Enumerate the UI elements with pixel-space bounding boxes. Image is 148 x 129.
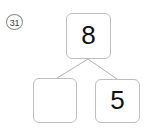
number-bond-whole-value: 8 (81, 22, 95, 48)
number-bond-part-box-right[interactable]: 5 (95, 79, 140, 123)
number-bond-whole-box[interactable]: 8 (66, 13, 111, 59)
connector-line-right (88, 59, 117, 79)
number-bond-part-value-right: 5 (110, 87, 124, 113)
number-bond-worksheet: 31 8 5 (0, 0, 148, 129)
number-bond-part-box-left[interactable] (33, 78, 77, 123)
connector-line-left (56, 59, 89, 79)
